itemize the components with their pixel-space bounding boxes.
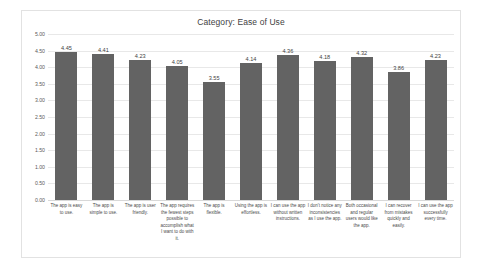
x-axis-label: Both occasional and regular users would … xyxy=(343,203,380,229)
bar[interactable] xyxy=(388,72,410,200)
bar-value-label: 4.32 xyxy=(343,50,380,56)
x-axis-label: I can use the app successfully every tim… xyxy=(417,203,454,223)
chart-container: Category: Ease of Use 5.004.504.003.503.… xyxy=(21,10,461,258)
y-axis-tick-label: 4.00 xyxy=(35,64,45,70)
x-axis-label: I can recover from mistakes quickly and … xyxy=(380,203,417,229)
bar-value-label: 4.18 xyxy=(306,54,343,60)
y-axis-tick-label: 0.50 xyxy=(35,180,45,186)
bar-slot: 4.41 xyxy=(85,34,122,200)
bar[interactable] xyxy=(351,57,373,200)
bar-slot: 4.23 xyxy=(122,34,159,200)
bar-slot: 4.36 xyxy=(269,34,306,200)
x-axis-label: I can use the app without written instru… xyxy=(269,203,306,223)
bar[interactable] xyxy=(129,60,151,200)
bar[interactable] xyxy=(166,66,188,200)
bar-series: 4.454.414.234.053.554.144.364.184.323.86… xyxy=(48,34,454,200)
gridline xyxy=(48,200,454,201)
y-axis-tick-label: 3.50 xyxy=(35,81,45,87)
y-axis-tick-label: 3.00 xyxy=(35,97,45,103)
bar-value-label: 4.23 xyxy=(122,53,159,59)
bar[interactable] xyxy=(277,55,299,200)
bar-slot: 4.14 xyxy=(233,34,270,200)
bar-value-label: 3.86 xyxy=(380,65,417,71)
bar-value-label: 4.45 xyxy=(48,45,85,51)
bar-slot: 4.45 xyxy=(48,34,85,200)
bar-slot: 4.05 xyxy=(159,34,196,200)
y-axis-tick-label: 1.50 xyxy=(35,147,45,153)
bar[interactable] xyxy=(425,60,447,200)
chart-title: Category: Ease of Use xyxy=(22,17,460,27)
y-axis-tick-label: 1.00 xyxy=(35,164,45,170)
bar-value-label: 4.23 xyxy=(417,53,454,59)
y-axis-tick-label: 2.00 xyxy=(35,131,45,137)
bar-value-label: 4.41 xyxy=(85,47,122,53)
bar-slot: 4.32 xyxy=(343,34,380,200)
x-axis-label: The app is flexible. xyxy=(196,203,233,216)
bar-value-label: 4.05 xyxy=(159,59,196,65)
bar[interactable] xyxy=(240,63,262,200)
plot-area: 5.004.504.003.503.002.502.001.501.000.50… xyxy=(48,34,454,200)
x-axis-label: The app is simple to use. xyxy=(85,203,122,216)
y-axis-tick-label: 5.00 xyxy=(35,31,45,37)
y-axis-tick-label: 4.50 xyxy=(35,48,45,54)
x-axis-label: The app is easy to use. xyxy=(48,203,85,216)
bar-slot: 4.23 xyxy=(417,34,454,200)
bar-value-label: 4.36 xyxy=(269,48,306,54)
x-axis-label: I don't notice any inconsistencies as I … xyxy=(306,203,343,223)
bar-slot: 3.86 xyxy=(380,34,417,200)
bar-slot: 4.18 xyxy=(306,34,343,200)
x-axis-label: The app requires the fewest steps possib… xyxy=(159,203,196,242)
y-axis-tick-label: 0.00 xyxy=(35,197,45,203)
bar[interactable] xyxy=(55,52,77,200)
x-axis-labels: The app is easy to use.The app is simple… xyxy=(48,203,454,263)
x-axis-label: The app is user friendly. xyxy=(122,203,159,216)
y-axis-tick-label: 2.50 xyxy=(35,114,45,120)
bar[interactable] xyxy=(314,61,336,200)
bar-slot: 3.55 xyxy=(196,34,233,200)
bar-value-label: 4.14 xyxy=(233,56,270,62)
bar-value-label: 3.55 xyxy=(196,75,233,81)
bar[interactable] xyxy=(92,54,114,200)
x-axis-label: Using the app is effortless. xyxy=(233,203,270,216)
bar[interactable] xyxy=(203,82,225,200)
